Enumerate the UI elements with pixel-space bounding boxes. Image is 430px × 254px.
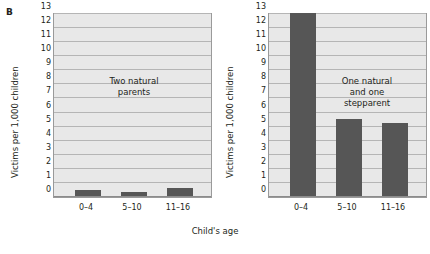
y-axis-ticks-right: 012345678910111213 xyxy=(226,13,266,198)
y-tick-label-6: 6 xyxy=(226,102,266,110)
x-tick-label-11–16: 11–16 xyxy=(156,203,200,212)
y-tick-label-9: 9 xyxy=(11,59,51,67)
bars-left xyxy=(55,15,210,196)
panel-annotation-left: Two natural parents xyxy=(82,76,186,98)
gridline-0 xyxy=(269,196,426,197)
x-tick-label-5–10: 5–10 xyxy=(110,203,154,212)
y-tick-label-0: 0 xyxy=(11,186,51,194)
y-tick-label-8: 8 xyxy=(226,73,266,81)
y-tick-label-1: 1 xyxy=(226,172,266,180)
y-tick-label-10: 10 xyxy=(226,45,266,53)
y-tick-label-3: 3 xyxy=(226,144,266,152)
figure-panel-b: B Victims per 1,000 children 01234567891… xyxy=(0,0,430,254)
y-tick-label-11: 11 xyxy=(226,31,266,39)
x-tick-label-0–4: 0–4 xyxy=(64,203,108,212)
y-tick-label-5: 5 xyxy=(11,116,51,124)
y-axis-ticks-left: 012345678910111213 xyxy=(11,13,51,198)
panel-one-natural-one-stepparent: One natural and one stepparent xyxy=(268,13,427,198)
x-tick-label-0–4: 0–4 xyxy=(279,203,323,212)
gridline-13 xyxy=(54,13,211,14)
y-tick-label-2: 2 xyxy=(11,158,51,166)
y-tick-label-13: 13 xyxy=(226,3,266,11)
plot-area-right: One natural and one stepparent xyxy=(268,13,427,198)
x-axis-ticks-right: 0–45–1011–16 xyxy=(268,203,427,215)
y-tick-label-3: 3 xyxy=(11,144,51,152)
gridline-0 xyxy=(54,196,211,197)
y-tick-label-11: 11 xyxy=(11,31,51,39)
y-tick-label-1: 1 xyxy=(11,172,51,180)
plot-area-left: Two natural parents xyxy=(53,13,212,198)
x-axis-ticks-left: 0–45–1011–16 xyxy=(53,203,212,215)
y-tick-label-10: 10 xyxy=(11,45,51,53)
bar-two-natural-parents-0–4 xyxy=(75,190,101,196)
y-tick-label-12: 12 xyxy=(11,17,51,25)
panel-annotation-right: One natural and one stepparent xyxy=(313,76,421,109)
bar-one-natural-one-stepparent-5–10 xyxy=(336,119,362,196)
y-tick-label-6: 6 xyxy=(11,102,51,110)
y-tick-label-0: 0 xyxy=(226,186,266,194)
y-tick-label-12: 12 xyxy=(226,17,266,25)
y-tick-label-2: 2 xyxy=(226,158,266,166)
y-tick-label-7: 7 xyxy=(226,87,266,95)
x-tick-label-5–10: 5–10 xyxy=(325,203,369,212)
bar-two-natural-parents-5–10 xyxy=(121,192,147,196)
x-axis-title: Child's age xyxy=(0,226,430,236)
bar-one-natural-one-stepparent-11–16 xyxy=(382,123,408,196)
panel-two-natural-parents: Two natural parents xyxy=(53,13,212,198)
y-tick-label-8: 8 xyxy=(11,73,51,81)
x-tick-label-11–16: 11–16 xyxy=(371,203,415,212)
y-tick-label-7: 7 xyxy=(11,87,51,95)
y-tick-label-4: 4 xyxy=(11,130,51,138)
y-tick-label-9: 9 xyxy=(226,59,266,67)
y-tick-label-4: 4 xyxy=(226,130,266,138)
y-tick-label-13: 13 xyxy=(11,3,51,11)
bar-two-natural-parents-11–16 xyxy=(167,188,193,196)
y-tick-label-5: 5 xyxy=(226,116,266,124)
